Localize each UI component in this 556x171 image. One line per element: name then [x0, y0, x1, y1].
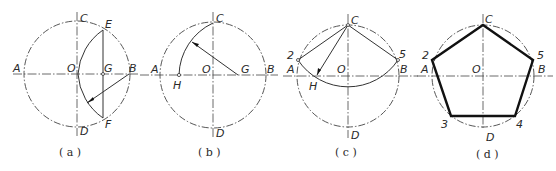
caption-c: ( c )	[335, 146, 357, 159]
label-c-C: C	[351, 14, 359, 27]
chord-c-2	[298, 25, 348, 60]
caption-a: ( a )	[59, 146, 81, 159]
label-a-B: B	[129, 62, 137, 75]
label-b-O: O	[202, 63, 211, 76]
label-c-5: 5	[399, 48, 406, 61]
label-d-4: 4	[516, 118, 523, 131]
label-d-B: B	[538, 63, 546, 76]
point-h-b	[177, 73, 180, 76]
label-b-B: B	[267, 63, 275, 76]
label-a-O: O	[67, 62, 76, 75]
label-c-O: O	[337, 63, 346, 76]
label-c-B: B	[400, 63, 408, 76]
label-a-C: C	[80, 12, 88, 25]
label-a-E: E	[105, 18, 112, 31]
label-c-2: 2	[287, 49, 294, 62]
point-c-c	[347, 24, 350, 27]
label-d-3: 3	[441, 118, 448, 131]
point-2-c	[297, 59, 300, 62]
label-c-A: A	[286, 63, 295, 76]
label-a-A: A	[12, 62, 21, 75]
label-d-5: 5	[537, 49, 544, 62]
figure-b: A B C D O G H ( b )	[140, 12, 278, 159]
caption-d: ( d )	[476, 148, 499, 161]
label-d-O: O	[472, 63, 481, 76]
label-a-F: F	[105, 118, 112, 131]
label-b-H: H	[173, 79, 181, 92]
label-d-C: C	[485, 13, 493, 26]
label-b-D: D	[216, 127, 224, 140]
label-d-2: 2	[422, 49, 429, 62]
label-c-H: H	[309, 80, 317, 93]
figure-d: A B C D O 2 5 3 4 ( d )	[417, 13, 553, 161]
label-c-D: D	[351, 129, 359, 142]
chord-c-5	[348, 25, 398, 60]
caption-b: ( b )	[198, 146, 221, 159]
pentagon-construction-diagram: A B C D O E F G ( a ) A B C D O G H ( b …	[0, 0, 556, 171]
label-d-D: D	[486, 131, 494, 144]
label-d-A: A	[420, 63, 429, 76]
label-b-A: A	[150, 63, 159, 76]
figure-c: A B C D O H 2 5 ( c )	[283, 14, 418, 159]
arrow-head-a	[87, 97, 94, 103]
label-b-C: C	[216, 12, 224, 25]
label-b-G: G	[241, 63, 250, 76]
label-a-G: G	[104, 62, 113, 75]
radius-line-b	[192, 42, 238, 75]
label-a-D: D	[80, 125, 88, 138]
figure-a: A B C D O E F G ( a )	[12, 12, 140, 159]
